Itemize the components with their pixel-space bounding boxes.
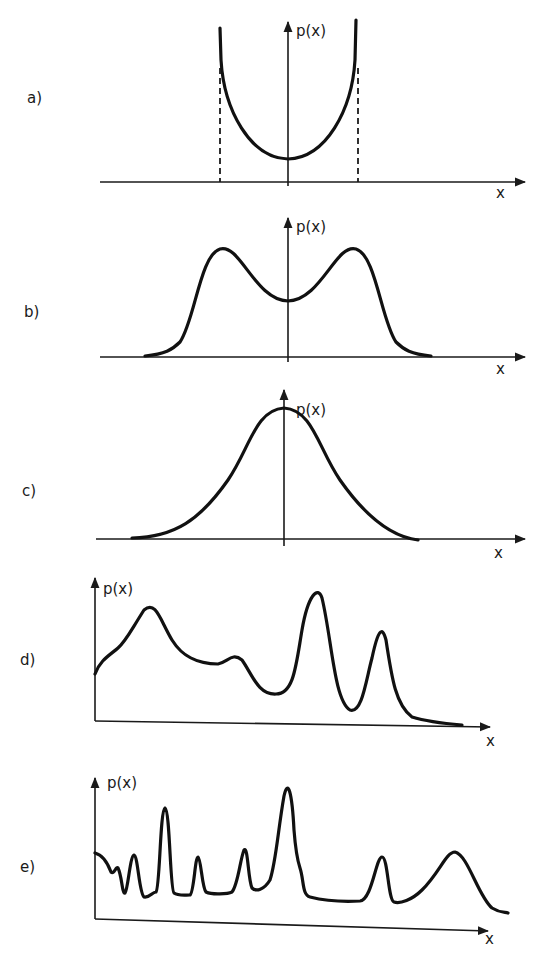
- panel-label-b: b): [24, 303, 39, 321]
- y-axis-label: p(x): [296, 218, 326, 236]
- density-curve: [132, 408, 418, 540]
- x-axis-label: x: [485, 930, 494, 948]
- x-axis-label: x: [494, 544, 503, 562]
- y-axis-label: p(x): [103, 580, 133, 598]
- panel-c: c) p(x) x: [22, 390, 525, 562]
- panel-b: b) p(x) x: [24, 218, 525, 378]
- panel-e: e) p(x) x: [20, 774, 508, 948]
- x-axis-label: x: [496, 360, 505, 378]
- density-curve: [95, 788, 508, 913]
- x-axis: [95, 919, 488, 931]
- panel-d: d) p(x) x: [20, 578, 495, 750]
- x-axis-label: x: [486, 732, 495, 750]
- panel-a: a) p(x) x: [27, 20, 525, 202]
- panel-label-d: d): [20, 651, 35, 669]
- panel-label-c: c): [22, 482, 36, 500]
- panel-label-e: e): [20, 858, 35, 876]
- panel-label-a: a): [27, 89, 42, 107]
- y-axis-label: p(x): [296, 22, 326, 40]
- probability-density-figure: a) p(x) x b) p(x) x c) p(x) x d) p(x) x …: [0, 0, 555, 964]
- y-axis-label: p(x): [107, 774, 137, 792]
- x-axis-label: x: [496, 184, 505, 202]
- density-curve: [95, 593, 462, 725]
